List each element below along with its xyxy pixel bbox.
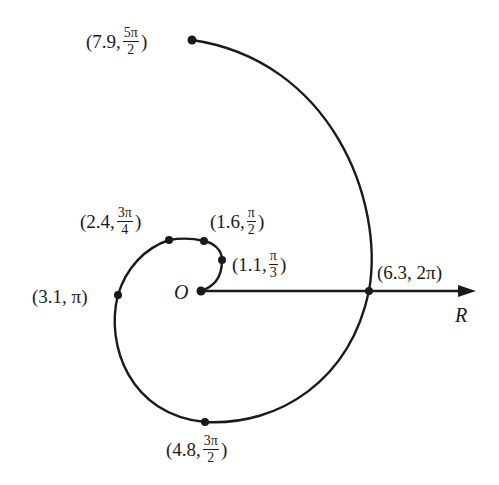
label-point-6: (6.3, 2π) (377, 263, 442, 282)
label-point-4: (3.1, π) (32, 287, 88, 306)
axis-arrowhead-icon (458, 285, 476, 297)
point-7 (188, 36, 197, 45)
point-4 (114, 291, 122, 299)
spiral-diagram (0, 0, 499, 485)
axis-label: R (455, 305, 467, 325)
point-5 (201, 418, 209, 426)
point-3 (165, 236, 173, 244)
label-prefix: (7.9, (86, 32, 121, 51)
label-point-1: (1.1, π 3 ) (232, 249, 286, 280)
label-point-7: (7.9, 5π 2 ) (86, 26, 147, 57)
point-2 (200, 237, 208, 245)
label-point-3: (2.4, 3π 4 ) (80, 206, 141, 237)
point-1 (218, 256, 226, 264)
fraction: 5π 2 (123, 26, 139, 57)
fraction: 3π 2 (203, 434, 219, 465)
label-suffix: ) (141, 32, 147, 51)
origin-point (197, 287, 206, 296)
label-point-5: (4.8, 3π 2 ) (166, 434, 227, 465)
origin-label: O (174, 282, 188, 302)
fraction: π 2 (247, 206, 256, 237)
label-point-2: (1.6, π 2 ) (210, 206, 264, 237)
point-6 (365, 287, 373, 295)
fraction: 3π 4 (117, 206, 133, 237)
fraction: π 3 (269, 249, 278, 280)
